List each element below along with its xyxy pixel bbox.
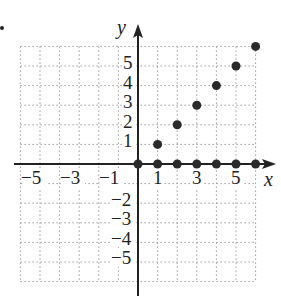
data-point [153, 160, 162, 169]
y-tick: 4 [123, 72, 133, 93]
data-point [192, 160, 201, 169]
y-tick: −5 [111, 247, 131, 268]
x-tick-labels: −5 −3 −1 1 3 5 [21, 167, 242, 188]
x-tick: −3 [60, 167, 80, 188]
data-point [192, 101, 201, 110]
y-tick: −2 [111, 189, 131, 210]
coordinate-plane: x y −5 −3 −1 1 3 5 5 4 3 2 1 −2 −3 −4 −5 [0, 0, 281, 300]
data-point [212, 81, 221, 90]
x-tick: 1 [153, 167, 163, 188]
y-tick: 1 [123, 130, 133, 151]
bullet-marker [0, 26, 4, 30]
data-point [212, 160, 221, 169]
x-tick: 5 [231, 167, 241, 188]
data-point [153, 140, 162, 149]
y-tick: −3 [111, 208, 131, 229]
y-tick: 3 [123, 91, 133, 112]
x-tick: −1 [99, 167, 119, 188]
data-point [173, 160, 182, 169]
data-point [232, 62, 241, 71]
data-point [134, 160, 143, 169]
y-tick: −4 [111, 228, 132, 249]
y-tick: 2 [123, 111, 133, 132]
data-point [251, 42, 260, 51]
data-point [251, 160, 260, 169]
x-tick: −5 [21, 167, 41, 188]
x-axis-label: x [263, 168, 273, 190]
y-tick-labels: 5 4 3 2 1 −2 −3 −4 −5 [110, 52, 135, 268]
data-point [173, 120, 182, 129]
y-axis-label: y [115, 16, 126, 39]
data-point [232, 160, 241, 169]
y-tick: 5 [123, 52, 133, 73]
x-tick: 3 [192, 167, 202, 188]
